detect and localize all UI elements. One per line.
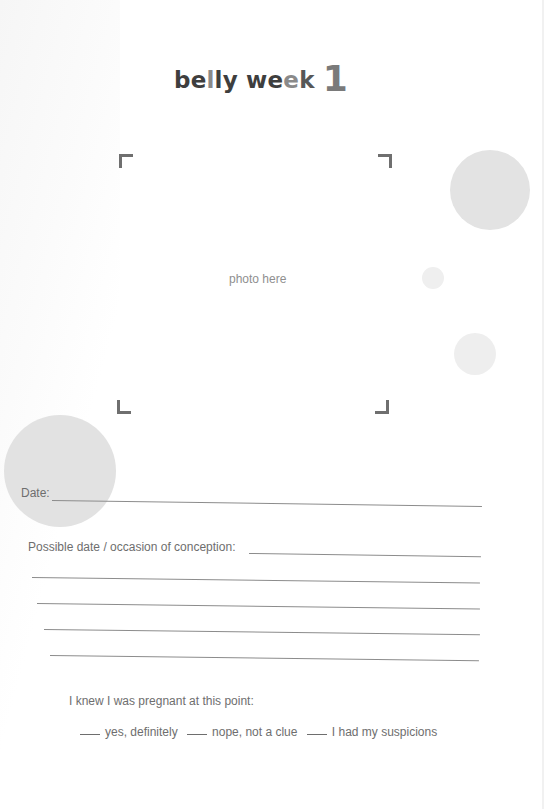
photo-placeholder: photo here [229,272,286,286]
writing-line[interactable] [32,577,480,583]
date-line[interactable] [52,500,482,507]
frame-corner-top-right-icon [378,154,392,168]
conception-label: Possible date / occasion of conception: [28,540,235,554]
checkbox-blank[interactable] [307,734,327,735]
title-part: ly [215,67,238,93]
answer-options: yes, definitely nope, not a clue I had m… [80,725,443,739]
frame-corner-top-left-icon [119,154,133,168]
title-part: l [206,67,214,93]
checkbox-blank[interactable] [80,734,100,735]
decorative-circle-small [422,267,444,289]
option-label: yes, definitely [105,725,178,739]
journal-page: belly week1 photo here Date: Possible da… [0,0,548,809]
page-shadow [0,0,120,809]
date-label: Date: [21,486,50,500]
frame-corner-bottom-right-icon [375,400,389,414]
decorative-circle-large [450,150,530,230]
title-part: k [299,67,315,93]
checkbox-blank[interactable] [187,734,207,735]
decorative-circle-left [4,415,116,527]
writing-line[interactable] [50,655,479,661]
week-number: 1 [323,58,348,99]
option-label: I had my suspicions [332,725,437,739]
title-part: be [174,67,206,93]
page-edge [542,0,544,809]
writing-line[interactable] [44,629,480,635]
writing-line[interactable] [37,603,480,609]
question-prompt: I knew I was pregnant at this point: [69,694,254,708]
page-title: belly week1 [174,58,348,99]
decorative-circle-medium [454,333,496,375]
title-part: e [283,67,299,93]
conception-line[interactable] [249,553,481,557]
frame-corner-bottom-left-icon [117,400,131,414]
title-part: we [246,67,283,93]
option-label: nope, not a clue [212,725,297,739]
